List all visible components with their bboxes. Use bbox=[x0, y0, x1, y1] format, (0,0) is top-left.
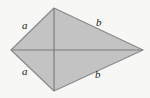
kite-figure: a b a b bbox=[0, 0, 150, 98]
kite-diagram-svg bbox=[0, 0, 150, 98]
side-label-a-top: a bbox=[22, 20, 28, 31]
side-label-b-bottom: b bbox=[95, 69, 101, 80]
side-label-b-top: b bbox=[96, 17, 102, 28]
side-label-a-bottom: a bbox=[22, 66, 28, 77]
